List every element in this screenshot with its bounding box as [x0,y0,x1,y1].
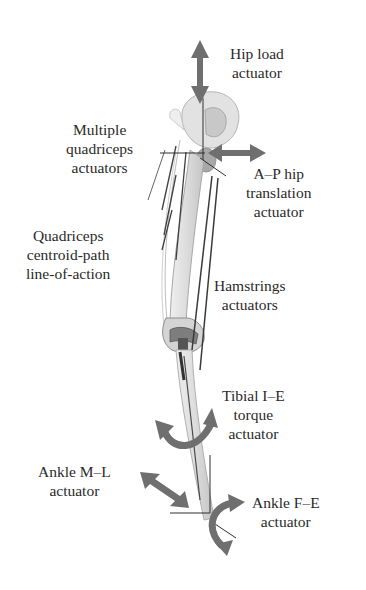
label-quad-centroid-line1: Quadriceps [26,226,110,245]
label-ankle-fe-line1: Ankle F–E [252,493,320,512]
label-ankle-fe: Ankle F–E actuator [252,493,320,531]
label-quadriceps-centroid: Quadriceps centroid-path line-of-action [26,226,110,283]
label-ap-hip-line1: A–P hip [246,164,311,183]
label-hip-load: Hip load actuator [230,44,284,82]
label-quad-centroid-line2: centroid-path [26,245,110,264]
label-hamstrings: Hamstrings actuators [214,276,285,314]
label-tibial-ie-torque: Tibial I–E torque actuator [222,386,285,443]
label-multiple-quadriceps: Multiple quadriceps actuators [66,120,133,177]
label-hip-load-line2: actuator [230,63,284,82]
label-multiple-quadriceps-line2: quadriceps [66,139,133,158]
label-tibial-ie-line2: torque [222,405,285,424]
label-ap-hip-translation: A–P hip translation actuator [246,164,311,221]
label-ankle-ml-line1: Ankle M–L [38,462,111,481]
label-ankle-fe-line2: actuator [252,512,320,531]
label-hamstrings-line2: actuators [214,295,285,314]
label-hip-load-line1: Hip load [230,44,284,63]
leg-actuator-diagram: Hip load actuator Multiple quadriceps ac… [0,0,366,590]
label-ap-hip-line2: translation [246,183,311,202]
label-ap-hip-line3: actuator [246,202,311,221]
label-ankle-ml: Ankle M–L actuator [38,462,111,500]
ankle-ml-arrow-icon [140,472,189,508]
label-hamstrings-line1: Hamstrings [214,276,285,295]
label-quad-centroid-line3: line-of-action [26,264,110,283]
label-multiple-quadriceps-line3: actuators [66,158,133,177]
knee-joint [163,318,205,353]
label-tibial-ie-line3: actuator [222,424,285,443]
label-tibial-ie-line1: Tibial I–E [222,386,285,405]
label-multiple-quadriceps-line1: Multiple [66,120,133,139]
label-ankle-ml-line2: actuator [38,481,111,500]
